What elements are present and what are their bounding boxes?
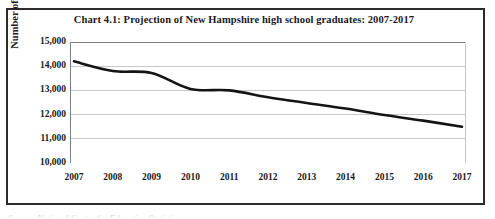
plot-area <box>70 42 466 163</box>
x-tick-label: 2010 <box>170 172 210 182</box>
y-tick-label: 15,000 <box>22 36 66 46</box>
y-tick-label: 12,000 <box>22 109 66 119</box>
x-tick-label: 2007 <box>54 172 94 182</box>
line-chart-svg <box>70 42 466 163</box>
y-axis-tick-labels: 15,00014,00013,00012,00011,00010,000 <box>22 36 66 170</box>
x-tick-label: 2015 <box>364 172 404 182</box>
x-tick-label: 2016 <box>403 172 443 182</box>
chart-figure: Chart 4.1: Projection of New Hampshire h… <box>0 0 495 219</box>
y-tick-label: 11,000 <box>22 133 66 143</box>
x-tick-label: 2013 <box>287 172 327 182</box>
x-tick-label: 2012 <box>248 172 288 182</box>
data-series-line <box>74 61 462 126</box>
x-tick-label: 2011 <box>209 172 249 182</box>
y-tick-label: 10,000 <box>22 157 66 167</box>
x-tick-label: 2014 <box>326 172 366 182</box>
x-axis-tick-labels: 2007200820092010201120122013201420152016… <box>70 172 468 188</box>
chart-title: Chart 4.1: Projection of New Hampshire h… <box>14 14 474 25</box>
x-tick-label: 2009 <box>132 172 172 182</box>
y-tick-label: 14,000 <box>22 60 66 70</box>
x-tick-label: 2008 <box>93 172 133 182</box>
clipped-source-note: Source: National Center for Education St… <box>8 214 258 217</box>
x-tick-label: 2017 <box>442 172 482 182</box>
y-axis-title-container: Number of graduates <box>9 0 23 61</box>
y-axis-title: Number of graduates <box>9 0 20 49</box>
y-tick-label: 13,000 <box>22 84 66 94</box>
